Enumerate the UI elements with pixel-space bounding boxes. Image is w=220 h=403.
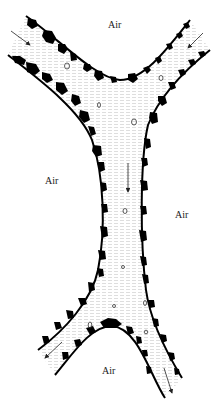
diagram-canvas: Air Air Air Air: [0, 0, 220, 403]
air-label-right: Air: [175, 210, 188, 220]
air-label-bottom: Air: [102, 366, 115, 376]
plateau-border-diagram: [0, 0, 220, 403]
air-label-top: Air: [108, 20, 121, 30]
air-label-left: Air: [45, 176, 58, 186]
